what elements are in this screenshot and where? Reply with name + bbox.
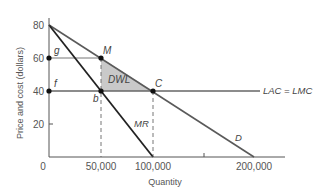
label-g: g (54, 45, 60, 56)
point-f (46, 88, 51, 93)
monopoly-dwl-chart: 80 60 40 20 0 50,000 100,000 200,000 Qua… (0, 0, 318, 192)
x-tick-label-50000: 50,000 (86, 161, 117, 172)
label-f: f (54, 78, 58, 89)
label-mr: MR (134, 118, 149, 129)
point-M (98, 55, 103, 60)
y-tick-label-60: 60 (33, 53, 45, 64)
x-axis-title: Quantity (148, 177, 182, 187)
label-lac-lmc: LAC = LMC (263, 85, 313, 96)
label-C: C (155, 78, 163, 89)
y-tick-label-20: 20 (33, 119, 45, 130)
y-axis-title: Price and cost (dollars) (15, 47, 25, 139)
point-C (150, 88, 155, 93)
point-g (46, 55, 51, 60)
y-tick-label-80: 80 (33, 20, 45, 31)
y-tick-label-40: 40 (33, 86, 45, 97)
label-dwl: DWL (108, 74, 130, 85)
x-tick-label-200000: 200,000 (236, 161, 273, 172)
label-M: M (103, 45, 112, 56)
point-b (98, 88, 103, 93)
label-d: D (235, 132, 242, 143)
label-b: b (93, 93, 99, 104)
x-tick-label-0: 0 (40, 161, 46, 172)
x-tick-label-100000: 100,000 (135, 161, 172, 172)
